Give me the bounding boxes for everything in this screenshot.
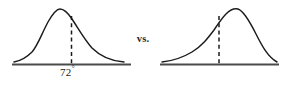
left-distribution-curve	[14, 9, 124, 62]
distribution-comparison-figure: 72° vs. 72°	[0, 0, 289, 87]
left-axis-value: 72	[60, 66, 71, 78]
left-distribution-panel: 72°	[0, 0, 140, 87]
degree-symbol-icon: °	[71, 64, 74, 73]
right-distribution-svg	[150, 0, 289, 87]
right-distribution-panel: 72°	[150, 0, 289, 87]
left-axis-tick-label: 72°	[60, 66, 75, 78]
